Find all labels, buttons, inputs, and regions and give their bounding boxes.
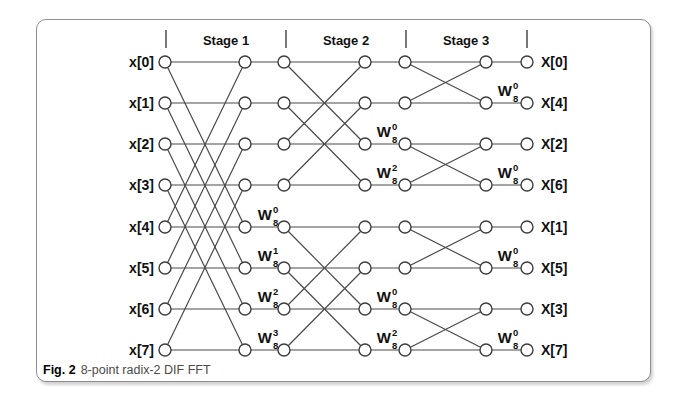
figure-caption-title: 8-point radix-2 DIF FFT [81,363,211,377]
figure-caption: Fig. 28-point radix-2 DIF FFT [43,363,211,378]
figure-caption-number: Fig. 2 [43,363,76,377]
figure-panel [36,19,651,382]
page: Stage 1Stage 2Stage 3x[0]x[1]x[2]x[3]x[4… [0,0,688,409]
